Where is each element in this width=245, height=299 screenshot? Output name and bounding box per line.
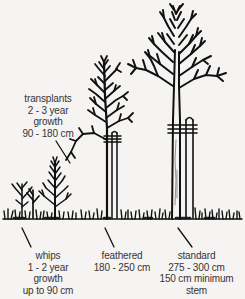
- tree-size-diagram: transplants 2 - 3 year growth 90 - 180 c…: [0, 0, 245, 299]
- leader-line-feathered: [105, 228, 114, 247]
- label-standard-line-4: stem: [148, 285, 245, 297]
- leader-line-transplants: [56, 141, 70, 163]
- label-whips-line-4: up to 90 cm: [0, 285, 96, 297]
- label-standard-line-1: standard: [148, 250, 245, 262]
- leader-line-whips: [22, 228, 31, 247]
- standard-tree-branches: [128, 4, 226, 88]
- label-whips-line-3: growth: [0, 273, 96, 285]
- label-transplants: transplants 2 - 3 year growth 90 - 180 c…: [6, 93, 90, 139]
- label-transplants-line-4: 90 - 180 cm: [6, 128, 90, 140]
- standard-tree-bark: [175, 140, 177, 205]
- label-standard-line-2: 275 - 300 cm: [148, 262, 245, 274]
- leader-line-standard: [178, 228, 192, 247]
- label-standard: standard 275 - 300 cm 150 cm minimum ste…: [148, 250, 245, 296]
- label-transplants-line-2: 2 - 3 year: [6, 105, 90, 117]
- label-transplants-line-1: transplants: [6, 93, 90, 105]
- label-standard-line-3: 150 cm minimum: [148, 273, 245, 285]
- whip-plant-2: [27, 189, 39, 218]
- label-transplants-line-3: growth: [6, 116, 90, 128]
